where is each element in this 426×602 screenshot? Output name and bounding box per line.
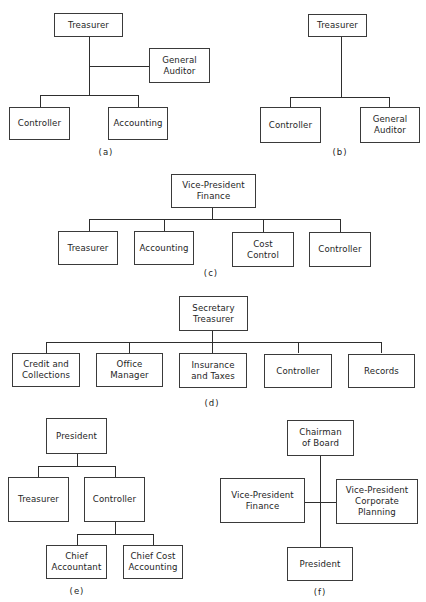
node-accounting: Accounting <box>134 231 194 265</box>
node-general-auditor: General Auditor <box>360 107 420 143</box>
node-label: Treasurer <box>317 20 358 31</box>
connector-line <box>298 342 299 353</box>
connector-line <box>77 534 78 545</box>
node-label: Secretary Treasurer <box>192 303 234 325</box>
node-secretary-treasurer: Secretary Treasurer <box>179 296 248 331</box>
connector-line <box>138 95 139 107</box>
connector-line <box>89 219 341 220</box>
node-vice-president-corporate-planning: Vice-President Corporate Planning <box>336 479 418 524</box>
node-insurance-and-taxes: Insurance and Taxes <box>179 353 247 388</box>
node-label: Treasurer <box>18 494 59 505</box>
panel-caption: (a) <box>99 147 114 157</box>
node-label: Treasurer <box>68 20 109 31</box>
node-label: Controller <box>276 366 319 377</box>
connector-line <box>291 97 390 98</box>
node-president: President <box>287 547 353 581</box>
connector-line <box>89 66 149 67</box>
node-treasurer: Treasurer <box>8 477 69 522</box>
connector-line <box>389 97 390 107</box>
connector-line <box>115 522 116 534</box>
node-treasurer: Treasurer <box>58 231 118 265</box>
node-label: Vice-President Corporate Planning <box>346 485 409 518</box>
node-general-auditor: General Auditor <box>149 48 210 83</box>
connector-line <box>164 219 165 231</box>
connector-line <box>40 95 41 107</box>
node-cost-control: Cost Control <box>232 232 294 267</box>
connector-line <box>263 219 264 232</box>
node-label: Chief Cost Accounting <box>129 551 178 573</box>
panel-caption: (d) <box>204 398 219 408</box>
connector-line <box>89 219 90 231</box>
node-records: Records <box>348 354 415 388</box>
connector-line <box>153 534 154 545</box>
node-label: Controller <box>269 120 312 131</box>
connector-line <box>77 454 78 466</box>
panel-caption: (f) <box>314 587 327 597</box>
node-label: Records <box>364 366 399 377</box>
node-chief-accountant: Chief Accountant <box>46 545 107 579</box>
node-label: President <box>300 559 341 570</box>
node-controller: Controller <box>260 107 321 143</box>
connector-line <box>340 219 341 232</box>
node-label: President <box>56 431 97 442</box>
node-label: Insurance and Taxes <box>191 360 234 382</box>
connector-line <box>305 502 336 503</box>
node-treasurer: Treasurer <box>54 13 123 37</box>
node-office-manager: Office Manager <box>96 353 163 387</box>
connector-line <box>129 342 130 353</box>
node-label: Credit and Collections <box>22 359 70 381</box>
node-chief-cost-accounting: Chief Cost Accounting <box>123 545 183 579</box>
panel-caption: (c) <box>204 268 218 278</box>
node-label: Vice-President Finance <box>231 490 294 512</box>
node-chairman-of-board: Chairman of Board <box>287 420 354 456</box>
node-credit-and-collections: Credit and Collections <box>12 353 80 387</box>
connector-line <box>341 37 342 97</box>
connector-line <box>77 534 154 535</box>
node-controller: Controller <box>84 477 145 522</box>
node-label: Treasurer <box>68 243 109 254</box>
connector-line <box>381 342 382 353</box>
node-vice-president-finance: Vice-President Finance <box>220 478 305 523</box>
node-label: Controller <box>318 244 361 255</box>
node-controller: Controller <box>9 107 70 140</box>
node-label: Controller <box>93 494 136 505</box>
node-label: Accounting <box>114 118 163 129</box>
node-label: Vice-President Finance <box>182 180 245 202</box>
node-label: Office Manager <box>110 359 148 381</box>
node-label: General Auditor <box>162 55 197 77</box>
node-label: Controller <box>18 118 61 129</box>
node-president: President <box>46 418 107 454</box>
node-label: Cost Control <box>247 239 279 261</box>
panel-caption: (b) <box>332 147 347 157</box>
node-label: Chief Accountant <box>52 551 102 573</box>
connector-line <box>290 97 291 107</box>
panel-caption: (e) <box>70 586 85 596</box>
node-controller: Controller <box>264 354 332 388</box>
node-controller: Controller <box>309 232 371 267</box>
node-vice-president-finance: Vice-President Finance <box>171 174 256 208</box>
connector-line <box>38 466 116 467</box>
node-accounting: Accounting <box>108 107 168 140</box>
connector-line <box>46 342 382 343</box>
connector-line <box>38 466 39 477</box>
node-label: Chairman of Board <box>299 427 341 449</box>
connector-line <box>212 208 213 219</box>
node-treasurer: Treasurer <box>308 14 367 37</box>
connector-line <box>46 342 47 353</box>
connector-line <box>115 466 116 477</box>
node-label: General Auditor <box>373 114 408 136</box>
node-label: Accounting <box>140 243 189 254</box>
connector-line <box>40 95 139 96</box>
